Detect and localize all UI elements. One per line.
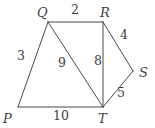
length-label-RS: 4 (120, 29, 128, 42)
vertex-label-P: P (3, 112, 12, 125)
length-label-RT: 8 (94, 55, 102, 68)
edge-group (18, 22, 133, 107)
length-label-ST: 5 (117, 87, 125, 100)
figure-canvas (0, 0, 155, 128)
geometry-figure: P Q R S T 3 2 4 5 10 9 8 (0, 0, 155, 128)
vertex-label-R: R (100, 6, 110, 19)
vertex-label-Q: Q (37, 6, 48, 19)
length-label-QT: 9 (58, 57, 66, 70)
length-label-PQ: 3 (17, 50, 25, 63)
edge-PQ (18, 22, 48, 107)
edge-RS (103, 22, 133, 71)
length-label-QR: 2 (71, 4, 79, 17)
length-label-TP: 10 (53, 110, 69, 123)
vertex-label-S: S (139, 66, 148, 79)
vertex-label-T: T (98, 112, 107, 125)
